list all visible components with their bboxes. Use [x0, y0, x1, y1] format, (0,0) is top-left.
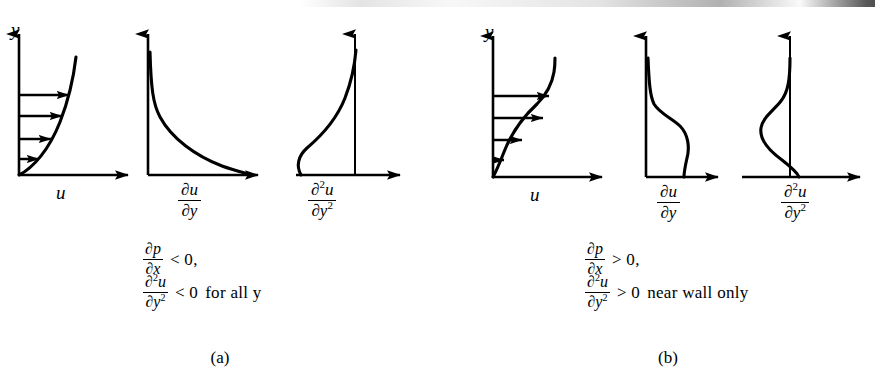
x-axis-label-b2: ∂u ∂y — [657, 183, 680, 223]
y-axis-label-b1: y — [485, 21, 493, 43]
fraction-denominator: ∂y2 — [585, 292, 610, 311]
fraction-numerator: ∂2u — [585, 274, 610, 292]
fraction-numerator: ∂p — [143, 241, 163, 259]
fraction-numerator: ∂p — [585, 241, 605, 259]
condition-relation: < 0 — [175, 283, 198, 303]
second-derivative-curve-a — [298, 50, 356, 175]
fraction-numerator: ∂2u — [781, 183, 809, 202]
condition-relation: > 0, — [612, 250, 640, 270]
panel-a-second-derivative — [296, 34, 400, 175]
second-derivative-curve-b — [761, 58, 799, 177]
figure-vector-layer — [0, 0, 875, 379]
figure-root: y u ∂u ∂y ∂2u ∂y2 y u ∂u ∂y ∂2u ∂y2 ∂p ∂… — [0, 0, 875, 379]
x-axis-label-a2: ∂u ∂y — [178, 181, 201, 221]
fraction-denominator: ∂y2 — [143, 292, 168, 311]
panel-a-first-derivative — [148, 34, 258, 175]
condition-row: ∂2u ∂y2 < 0 for all y — [143, 276, 262, 309]
condition-relation: < 0, — [170, 250, 198, 270]
panel-a-velocity-profile — [19, 34, 128, 175]
caption-panel-b: (b) — [638, 348, 698, 368]
fraction-numerator: ∂2u — [308, 181, 336, 200]
x-axis-label-b3: ∂2u ∂y2 — [781, 183, 809, 223]
caption-panel-a: (a) — [190, 348, 250, 368]
condition-row: ∂p ∂x < 0, — [143, 243, 262, 276]
conditions-panel-b: ∂p ∂x > 0, ∂2u ∂y2 > 0 near wall only — [585, 243, 749, 309]
panel-b-first-derivative — [646, 36, 718, 177]
first-derivative-curve-a — [150, 52, 248, 174]
condition-relation: > 0 — [617, 283, 640, 303]
fraction-denominator: ∂y — [178, 200, 201, 220]
fraction-numerator: ∂2u — [143, 274, 168, 292]
fraction-denominator: ∂y2 — [308, 200, 336, 220]
second-derivative-fraction: ∂2u ∂y2 — [585, 274, 610, 311]
condition-qualifier: for all y — [205, 283, 262, 303]
condition-row: ∂2u ∂y2 > 0 near wall only — [585, 276, 749, 309]
fraction-numerator: ∂u — [657, 183, 680, 202]
condition-qualifier: near wall only — [647, 283, 748, 303]
fraction-denominator: ∂y — [657, 202, 680, 222]
x-axis-label-a1: u — [56, 182, 66, 204]
condition-row: ∂p ∂x > 0, — [585, 243, 749, 276]
panel-b-second-derivative — [742, 36, 860, 177]
first-derivative-curve-b — [648, 58, 688, 177]
y-axis-label-a1: y — [11, 19, 19, 41]
panel-b-velocity-profile — [493, 36, 602, 177]
fraction-denominator: ∂y2 — [781, 202, 809, 222]
x-axis-label-a3: ∂2u ∂y2 — [308, 181, 336, 221]
fraction-numerator: ∂u — [178, 181, 201, 200]
conditions-panel-a: ∂p ∂x < 0, ∂2u ∂y2 < 0 for all y — [143, 243, 262, 309]
x-axis-label-b1: u — [530, 184, 540, 206]
second-derivative-fraction: ∂2u ∂y2 — [143, 274, 168, 311]
